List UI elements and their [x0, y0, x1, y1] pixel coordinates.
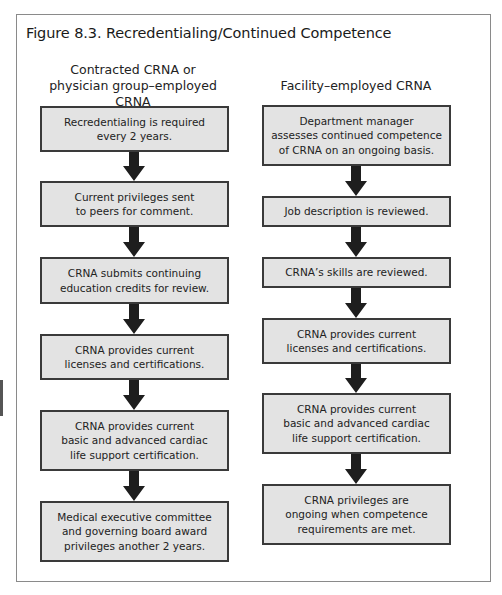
down-arrow-icon	[344, 288, 368, 318]
flow-step-contracted-5: CRNA provides current basic and advanced…	[40, 410, 229, 471]
down-arrow-icon	[344, 364, 368, 393]
column-heading-contracted: Contracted CRNA or physician group–emplo…	[30, 62, 236, 110]
page-edge-mark	[0, 380, 3, 416]
flow-step-facility-1: Department manager assesses continued co…	[262, 105, 451, 166]
flow-step-facility-2: Job description is reviewed.	[262, 196, 451, 227]
down-arrow-icon	[344, 227, 368, 257]
down-arrow-icon	[344, 454, 368, 484]
down-arrow-icon	[122, 227, 146, 257]
flow-step-facility-6: CRNA privileges are ongoing when compete…	[262, 484, 451, 545]
flow-step-facility-4: CRNA provides current licenses and certi…	[262, 318, 451, 364]
figure-title: Figure 8.3. Recredentialing/Continued Co…	[26, 25, 391, 41]
flow-step-contracted-4: CRNA provides current licenses and certi…	[40, 334, 229, 380]
flow-step-contracted-6: Medical executive committee and governin…	[40, 501, 229, 562]
flow-step-contracted-3: CRNA submits continuing education credit…	[40, 257, 229, 304]
down-arrow-icon	[122, 380, 146, 410]
down-arrow-icon	[122, 471, 146, 501]
down-arrow-icon	[122, 304, 146, 334]
flow-step-contracted-2: Current privileges sent to peers for com…	[40, 181, 229, 227]
down-arrow-icon	[344, 166, 368, 196]
down-arrow-icon	[122, 152, 146, 181]
column-heading-facility: Facility–employed CRNA	[256, 78, 456, 94]
flow-step-contracted-1: Recredentialing is required every 2 year…	[40, 106, 229, 152]
flow-step-facility-5: CRNA provides current basic and advanced…	[262, 393, 451, 454]
flow-step-facility-3: CRNA’s skills are reviewed.	[262, 257, 451, 288]
